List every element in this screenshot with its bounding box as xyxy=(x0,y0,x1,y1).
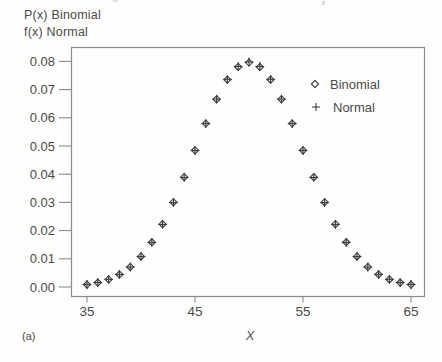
x-tick-label: 35 xyxy=(79,304,94,319)
y-tick-label: 0.08 xyxy=(30,54,55,69)
x-tick-label: 65 xyxy=(403,304,418,319)
x-axis-title: X xyxy=(240,328,260,343)
legend-diamond-icon xyxy=(311,80,318,87)
subfigure-label: (a) xyxy=(22,330,35,342)
y-tick-label: 0.02 xyxy=(30,223,55,238)
y-tick-label: 0.04 xyxy=(30,167,55,182)
x-tick-label: 45 xyxy=(187,304,202,319)
y-tick-label: 0.07 xyxy=(30,82,55,97)
scatter-plot: 0.000.010.020.030.040.050.060.070.083545… xyxy=(0,0,442,362)
legend-label-normal: Normal xyxy=(333,100,375,115)
x-tick-label: 55 xyxy=(295,304,310,319)
y-tick-label: 0.00 xyxy=(30,280,55,295)
y-tick-label: 0.06 xyxy=(30,110,55,125)
legend-label-binomial: Binomial xyxy=(330,77,380,92)
y-tick-label: 0.01 xyxy=(30,251,55,266)
y-tick-label: 0.05 xyxy=(30,139,55,154)
y-tick-label: 0.03 xyxy=(30,195,55,210)
figure-panel: P(x) Binomial f(x) Normal 0.000.010.020.… xyxy=(0,0,442,362)
